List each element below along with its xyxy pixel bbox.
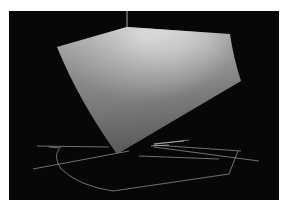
ground-wireframe	[33, 140, 259, 191]
shaded-solid	[57, 27, 241, 154]
render-scene	[9, 11, 279, 200]
render-viewport	[9, 11, 279, 200]
